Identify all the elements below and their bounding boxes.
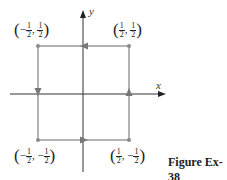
- corner-point-bottom-right: [127, 138, 131, 142]
- arrow-up-icon: [126, 88, 133, 96]
- y-axis-arrow-icon: [80, 10, 86, 18]
- x-axis-label: x: [156, 79, 161, 91]
- arrow-left-icon: [80, 43, 88, 50]
- corner-point-top-right: [127, 44, 131, 48]
- x-axis-arrow-icon: [158, 91, 166, 97]
- corner-label-top-left: (−12, 12): [14, 20, 49, 40]
- arrow-right-icon: [80, 137, 88, 144]
- corner-label-bottom-right: (12, −12): [110, 146, 145, 166]
- corner-label-bottom-left: (−12, −12): [14, 146, 55, 166]
- y-axis-label: y: [89, 5, 94, 17]
- corner-label-top-right: (12, 12): [113, 20, 142, 40]
- corner-point-top-left: [36, 44, 40, 48]
- corner-point-bottom-left: [36, 138, 40, 142]
- figure-caption: Figure Ex-38: [168, 155, 227, 180]
- arrow-down-icon: [35, 88, 42, 96]
